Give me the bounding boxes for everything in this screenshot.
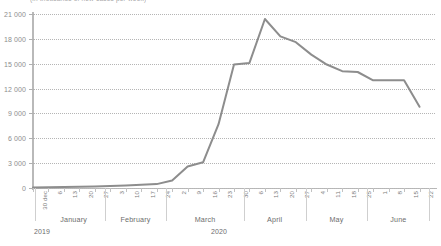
x-axis-day-label: 6 (56, 191, 63, 195)
x-axis-day-label: 20 (87, 191, 94, 198)
x-axis-day-label: 30 (242, 191, 249, 198)
x-axis-day-label: 30 dec (42, 191, 48, 210)
y-axis-tick (29, 89, 34, 90)
y-axis-label: 12 000 (0, 85, 26, 92)
y-axis-tick (29, 138, 34, 139)
y-axis-label: 3 000 (0, 160, 26, 167)
y-axis-tick (29, 14, 34, 15)
x-axis-day-label: 22 (427, 191, 434, 198)
x-axis-day-label: 25 (365, 191, 372, 198)
month-label: February (105, 215, 167, 224)
plot-area (33, 14, 435, 188)
x-axis-day-label: 27 (102, 191, 109, 198)
x-axis-day-label: 20 (288, 191, 295, 198)
y-axis-tick (29, 39, 34, 40)
y-axis-label: 21 000 (0, 11, 26, 18)
month-label: June (367, 215, 429, 224)
x-axis-day-label: 17 (149, 191, 156, 198)
x-axis-day-label: 24 (164, 191, 171, 198)
x-axis-day-label: 9 (195, 191, 202, 195)
y-axis-label: 9 000 (0, 110, 26, 117)
x-axis-month-labels: JanuaryFebruaryMarchAprilMayJune (0, 215, 441, 229)
x-axis-day-label: 13 (71, 191, 78, 198)
x-axis-day-labels: 30 dec6132027310172429162330613202741118… (0, 191, 441, 217)
x-axis-year-labels: 20192020 (0, 228, 441, 240)
x-axis-day-label: 1 (381, 191, 388, 195)
x-axis-day-label: 4 (319, 191, 326, 195)
x-axis-day-label: 16 (211, 191, 218, 198)
y-axis-label: 18 000 (0, 35, 26, 42)
x-axis-day-label: 23 (226, 191, 233, 198)
x-axis-day-label: 11 (334, 191, 341, 198)
month-label: January (43, 215, 105, 224)
x-axis-day-label: 13 (272, 191, 279, 198)
y-axis-label: 15 000 (0, 60, 26, 67)
y-axis-tick (29, 113, 34, 114)
y-axis-tick (29, 163, 34, 164)
chart-container: (in thousands of new cases per week) 03 … (0, 0, 441, 246)
month-label: May (306, 215, 368, 224)
x-axis-day-label: 2 (180, 191, 187, 195)
x-axis-day-label: 6 (257, 191, 264, 195)
y-axis-tick (29, 64, 34, 65)
x-axis-day-label: 8 (396, 191, 403, 195)
x-axis-day-label: 27 (303, 191, 310, 198)
x-axis-day-label: 10 (133, 191, 140, 198)
month-label: March (166, 215, 243, 224)
year-label: 2020 (211, 228, 227, 235)
y-axis-label: 6 000 (0, 135, 26, 142)
year-label: 2019 (34, 228, 50, 235)
series-line (33, 14, 435, 188)
chart-title: (in thousands of new cases per week) (30, 0, 146, 4)
month-label: April (244, 215, 306, 224)
x-axis-day-label: 3 (118, 191, 125, 195)
x-axis-day-label: 15 (412, 191, 419, 198)
x-axis-day-label: 18 (350, 191, 357, 198)
